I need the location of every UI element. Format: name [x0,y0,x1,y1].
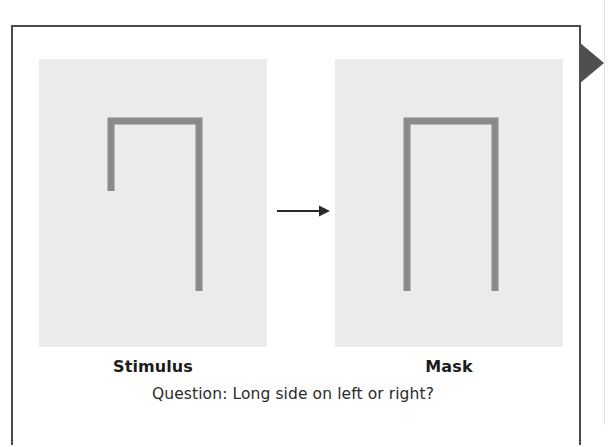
transition-arrow [275,199,331,223]
stimulus-outline-path [111,121,199,291]
stimulus-caption: Stimulus [39,357,267,376]
mask-outline-path [407,121,495,291]
adjacent-page-edge [604,0,605,425]
mask-caption: Mask [335,357,563,376]
stimulus-panel [39,59,267,347]
stimulus-shape [39,59,267,347]
question-text: Question: Long side on left or right? [13,385,573,403]
mask-panel [335,59,563,347]
right-pointing-triangle-marker-icon [579,42,604,84]
panels-row: Stimulus Mask Question: Long side on lef… [13,27,583,447]
figure-frame: Stimulus Mask Question: Long side on lef… [11,25,581,445]
arrow-right-icon [275,199,331,223]
mask-shape [335,59,563,347]
arrow-head [319,206,330,217]
